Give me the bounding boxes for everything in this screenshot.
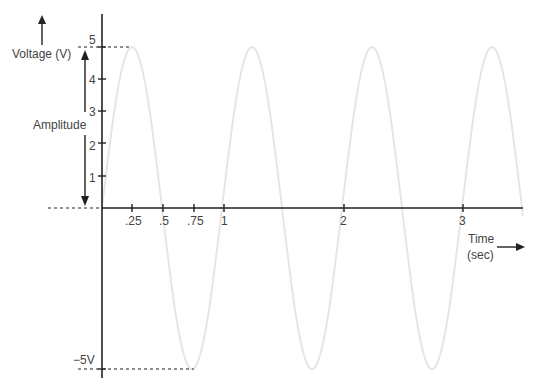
time-arrowhead-icon: [516, 243, 525, 251]
y-tick-label-2: 2: [89, 139, 96, 153]
x-tick-label-025: .25: [125, 214, 142, 228]
x-tick-label-075: .75: [187, 214, 204, 228]
x-tick-label-05: .5: [159, 214, 169, 228]
y-tick-label-neg5: −5V: [73, 353, 95, 367]
amplitude-arrowhead-up-icon: [81, 50, 89, 60]
sine-wave-chart: 5 4 3 2 1 −5V .25 .5 .75 1 2 3 Voltage (…: [0, 0, 537, 389]
amplitude-arrowhead-down-icon: [81, 196, 89, 206]
x-axis-label-line1: Time: [468, 232, 495, 246]
y-tick-label-3: 3: [89, 105, 96, 119]
y-axis-label: Voltage (V): [12, 47, 71, 61]
y-tick-label-5: 5: [89, 33, 96, 47]
amplitude-label: Amplitude: [33, 118, 87, 132]
x-tick-label-2: 2: [340, 214, 347, 228]
voltage-arrowhead-icon: [38, 15, 46, 24]
x-tick-label-3: 3: [459, 214, 466, 228]
x-tick-label-1: 1: [221, 214, 228, 228]
y-tick-label-1: 1: [89, 171, 96, 185]
y-tick-label-4: 4: [89, 73, 96, 87]
x-axis-label-line2: (sec): [467, 248, 494, 262]
